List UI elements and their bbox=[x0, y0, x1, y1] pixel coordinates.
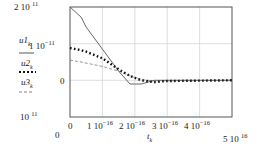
grid-lines bbox=[70, 7, 232, 117]
series-u3 bbox=[70, 60, 232, 81]
series-u1 bbox=[70, 7, 232, 84]
plot-area bbox=[0, 0, 271, 152]
series-u2 bbox=[70, 48, 232, 82]
plot-frame bbox=[70, 7, 232, 117]
